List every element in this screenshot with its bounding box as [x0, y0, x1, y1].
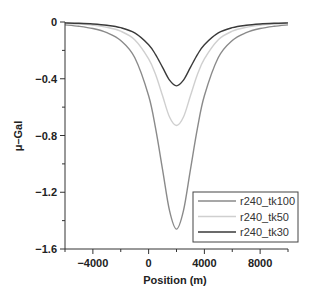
- legend-label-r240_tk50: r240_tk50: [240, 211, 289, 223]
- x-tick-label: 8000: [248, 257, 272, 269]
- x-tick-label: −4000: [77, 257, 108, 269]
- x-tick-label: 0: [146, 257, 152, 269]
- y-tick-label: −1.2: [35, 186, 57, 198]
- x-tick-label: 4000: [192, 257, 216, 269]
- gravity-anomaly-chart: 0−0.4−0.8−1.2−1.6−4000040008000 r240_tk1…: [0, 0, 312, 301]
- y-tick-label: 0: [51, 16, 57, 28]
- legend-label-r240_tk100: r240_tk100: [240, 195, 295, 207]
- legend: r240_tk100r240_tk50r240_tk30: [193, 192, 298, 242]
- y-tick-label: −1.6: [35, 243, 57, 255]
- legend-label-r240_tk30: r240_tk30: [240, 226, 289, 238]
- x-axis-title: Position (m): [143, 274, 207, 286]
- series-line-r240_tk50: [65, 23, 288, 125]
- y-tick-label: −0.4: [35, 73, 58, 85]
- y-tick-label: −0.8: [35, 130, 57, 142]
- y-axis-title: μ–Gal: [12, 121, 24, 152]
- series-line-r240_tk30: [65, 23, 288, 86]
